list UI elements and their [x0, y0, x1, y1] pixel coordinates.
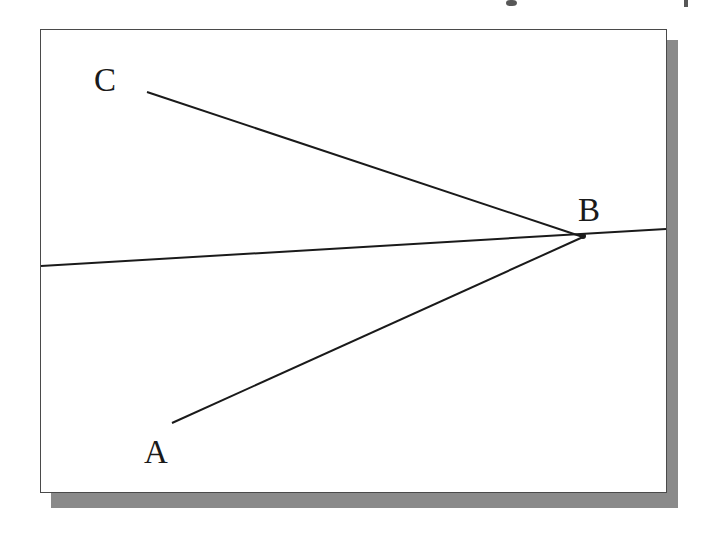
reference-line	[41, 229, 666, 266]
ray-cb	[147, 92, 583, 237]
ray-group	[41, 92, 666, 423]
figure-page: C B A	[0, 0, 704, 538]
ray-ab	[172, 237, 583, 423]
vertex-point-b	[580, 233, 586, 239]
vertex-label-c: C	[94, 64, 116, 97]
vertex-label-b: B	[578, 194, 600, 227]
vertex-label-a: A	[144, 436, 168, 469]
